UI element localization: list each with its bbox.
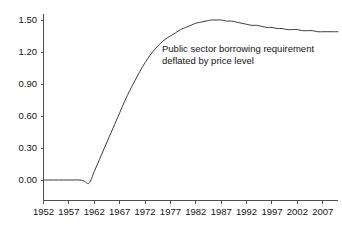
x-tick-label: 2002 — [287, 207, 308, 217]
x-tick-label: 1957 — [58, 207, 79, 217]
y-tick-label: 0.60 — [5, 111, 37, 121]
y-tick-label: 0.90 — [5, 79, 37, 89]
y-tick-label: 0.30 — [5, 143, 37, 153]
x-tick-label: 1967 — [109, 207, 130, 217]
y-tick-label: 1.20 — [5, 47, 37, 57]
x-tick-label: 1992 — [236, 207, 257, 217]
chart-plot-area — [0, 0, 342, 233]
x-tick-label: 2007 — [312, 207, 333, 217]
x-tick-label: 1987 — [211, 207, 232, 217]
annotation-line-2: deflated by price level — [162, 55, 314, 67]
chart-container: 1.501.200.900.600.300.00 195219571962196… — [0, 0, 342, 233]
x-tick-label: 1982 — [185, 207, 206, 217]
x-tick-label: 1962 — [84, 207, 105, 217]
x-tick-label: 1977 — [160, 207, 181, 217]
x-tick-label: 1972 — [134, 207, 155, 217]
y-tick-label: 1.50 — [5, 15, 37, 25]
x-tick-label: 1997 — [261, 207, 282, 217]
annotation-line-1: Public sector borrowing requirement — [162, 43, 314, 55]
x-tick-label: 1952 — [33, 207, 54, 217]
x-axis-ticks — [44, 201, 323, 205]
series-annotation: Public sector borrowing requirement defl… — [162, 43, 314, 67]
y-tick-label: 0.00 — [5, 175, 37, 185]
chart-axes — [44, 14, 339, 201]
